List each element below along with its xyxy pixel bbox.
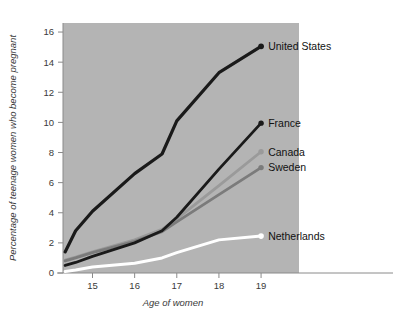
y-tick-label: 12	[43, 87, 54, 98]
series-label-united-states: United States	[268, 40, 331, 52]
endpoint-marker-sweden	[258, 165, 263, 170]
y-tick-label: 8	[49, 147, 54, 158]
endpoint-marker-netherlands	[258, 233, 264, 239]
line-chart: 0246810121416 1516171819 United StatesFr…	[0, 0, 399, 327]
x-tick-label: 19	[256, 280, 267, 291]
y-axis-title: Percentage of teenage women who become p…	[7, 35, 18, 261]
x-tick-label: 16	[129, 280, 140, 291]
y-tick-label: 4	[49, 207, 54, 218]
x-axis-title: Age of women	[142, 297, 204, 308]
endpoint-marker-united-states	[258, 43, 264, 49]
chart-container: 0246810121416 1516171819 United StatesFr…	[0, 0, 399, 327]
endpoint-marker-france	[258, 120, 263, 125]
series-label-sweden: Sweden	[268, 161, 306, 173]
series-label-netherlands: Netherlands	[268, 230, 325, 242]
series-label-france: France	[268, 117, 301, 129]
x-tick-label: 15	[87, 280, 98, 291]
y-tick-label: 16	[43, 26, 54, 37]
y-tick-label: 14	[43, 57, 54, 68]
x-tick-label: 17	[171, 280, 182, 291]
y-tick-label: 10	[43, 117, 54, 128]
x-tick-label: 18	[214, 280, 225, 291]
series-label-canada: Canada	[268, 146, 305, 158]
y-tick-label: 2	[49, 237, 54, 248]
y-tick-label: 6	[49, 177, 54, 188]
endpoint-marker-canada	[258, 149, 263, 154]
y-tick-label: 0	[49, 267, 54, 278]
